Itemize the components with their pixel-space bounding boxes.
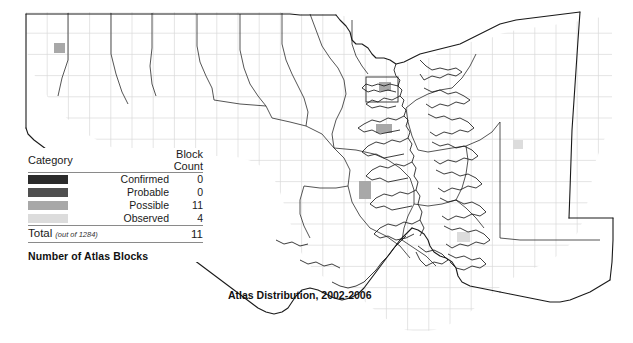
chesapeake-bay-shoreline [276, 60, 490, 288]
legend-total-value: 11 [169, 226, 203, 243]
map-title: Atlas Distribution, 2002-2006 [228, 289, 372, 301]
atlas-block-observed [457, 232, 470, 242]
swatch-cell-confirmed [28, 173, 74, 187]
legend-row-confirmed: Confirmed 0 [28, 173, 203, 187]
legend-header-block-count: Block Count [169, 148, 203, 173]
legend-panel: Category Block Count Confirmed 0 Probabl… [28, 148, 203, 262]
legend-count-possible: 11 [169, 199, 203, 212]
legend-count-probable: 0 [169, 186, 203, 199]
color-swatch-observed [28, 214, 68, 223]
atlas-block-possible [359, 181, 371, 199]
legend-caption: Number of Atlas Blocks [28, 250, 203, 262]
swatch-cell-observed [28, 212, 74, 226]
legend-label-confirmed: Confirmed [74, 173, 169, 187]
legend-label-observed: Observed [74, 212, 169, 226]
legend-label-probable: Probable [74, 186, 169, 199]
legend-count-observed: 4 [169, 212, 203, 226]
color-swatch-possible [28, 201, 68, 210]
legend-total-note: (out of 1284) [55, 230, 98, 239]
atlas-block-observed [513, 140, 523, 149]
atlas-block-possible [379, 82, 391, 91]
legend-total-label-cell: Total(out of 1284) [28, 226, 169, 243]
legend-total-label: Total [28, 227, 52, 239]
legend-row-possible: Possible 11 [28, 199, 203, 212]
legend-count-confirmed: 0 [169, 173, 203, 187]
swatch-cell-probable [28, 186, 74, 199]
legend-header-row: Category Block Count [28, 148, 203, 173]
atlas-block-possible [54, 43, 65, 53]
legend-header-category: Category [28, 148, 169, 173]
color-swatch-probable [28, 188, 68, 197]
legend-total-row: Total(out of 1284) 11 [28, 226, 203, 243]
legend-row-observed: Observed 4 [28, 212, 203, 226]
legend-label-possible: Possible [74, 199, 169, 212]
legend-row-probable: Probable 0 [28, 186, 203, 199]
color-swatch-confirmed [28, 175, 68, 184]
swatch-cell-possible [28, 199, 74, 212]
legend-table: Category Block Count Confirmed 0 Probabl… [28, 148, 203, 243]
